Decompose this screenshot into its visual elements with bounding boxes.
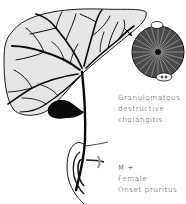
pathology-label-line-2: destructive [118,103,181,114]
duodenum-loop-icon [67,142,108,204]
clinical-label-line-2: Female [118,173,177,184]
gallbladder-icon [48,100,84,119]
clinical-label-line-1: M + [118,162,177,173]
pathology-label-line-3: cholangitis [118,114,181,125]
circular-cross-section-icon [132,22,184,82]
clinical-label-line-3: Onset pruritus [118,184,177,195]
pathology-label: Granulomatous destructive cholangitis [118,92,181,125]
pathology-label-line-1: Granulomatous [118,92,181,103]
biliary-diagram: Granulomatous destructive cholangitis M … [0,0,186,204]
clinical-label: M + Female Onset pruritus [118,162,177,195]
